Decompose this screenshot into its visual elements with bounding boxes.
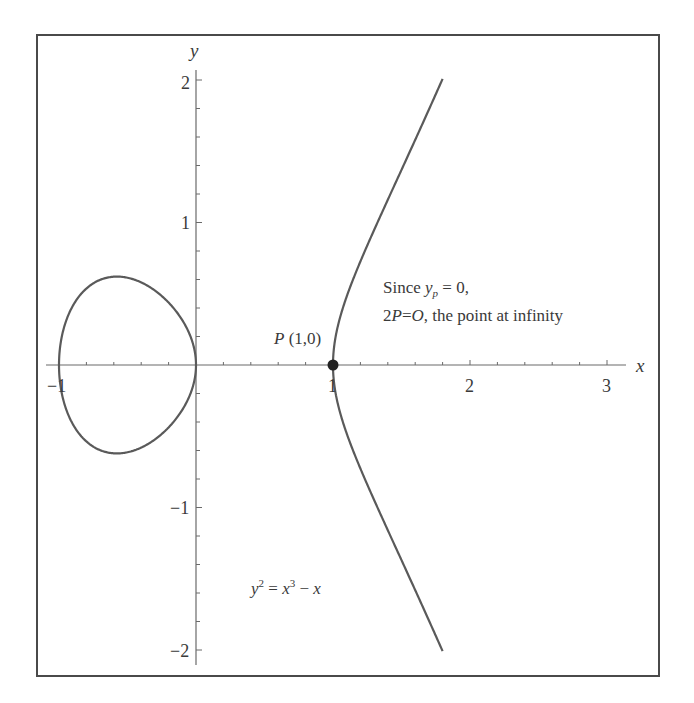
since-prefix: Since	[383, 278, 425, 297]
eq-x: x	[282, 579, 290, 598]
since-suffix: = 0,	[438, 278, 469, 297]
x-tick-label-1: 1	[328, 376, 337, 396]
equation-label: y2 = x3 − x	[251, 578, 321, 597]
y-tick-label-neg1: −1	[170, 498, 189, 518]
y-axis-label: y	[188, 40, 199, 61]
result-O: O	[411, 306, 423, 325]
eq-minus: −	[295, 579, 313, 598]
point-P-letter: P	[274, 329, 284, 348]
result-rest: , the point at infinity	[424, 306, 563, 325]
since-annotation: Since yp = 0,	[383, 279, 469, 299]
result-P: P	[392, 306, 402, 325]
point-P-coords: (1,0)	[284, 329, 321, 348]
result-coefficient: 2	[383, 306, 392, 325]
point-P-label: P (1,0)	[274, 330, 321, 347]
x-tick-label-neg1: −1	[47, 376, 66, 396]
figure-frame	[37, 35, 659, 676]
eq-x-linear: x	[313, 579, 321, 598]
y-tick-label-2: 2	[181, 73, 190, 93]
x-tick-label-3: 3	[602, 376, 611, 396]
eq-equals: =	[264, 579, 282, 598]
point-P-marker	[328, 360, 339, 371]
x-axis-label: x	[635, 355, 645, 376]
plot-canvas: y x −1 1 2 3 2 1 −1 −2	[0, 0, 694, 703]
point-at-infinity-annotation: 2P=O, the point at infinity	[383, 307, 563, 324]
since-var: y	[425, 278, 433, 297]
y-tick-label-neg2: −2	[170, 641, 189, 661]
eq-y: y	[251, 579, 259, 598]
y-tick-label-1: 1	[181, 213, 190, 233]
elliptic-curve-figure: y x −1 1 2 3 2 1 −1 −2 P (1,0) Since yp …	[0, 0, 694, 703]
x-tick-label-2: 2	[465, 376, 474, 396]
